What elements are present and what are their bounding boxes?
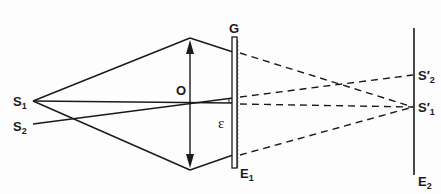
ray-s1-bottom xyxy=(33,101,190,170)
label-e1: E1 xyxy=(240,166,254,183)
label-grating-g: G xyxy=(229,21,239,36)
label-lens-o: O xyxy=(176,83,186,98)
label-s2: S2 xyxy=(13,119,27,136)
diagram-canvas: S1 S2 O G ε E1 S′2 S′1 E2 xyxy=(0,0,441,194)
ray-s1-top xyxy=(33,38,190,101)
ray-lens-top-to-grating xyxy=(190,38,233,52)
label-s2-prime: S′2 xyxy=(418,68,435,85)
dashed-top-to-s1prime xyxy=(240,53,413,107)
label-epsilon: ε xyxy=(218,115,224,131)
diffracted-rays xyxy=(240,53,413,155)
dashed-s2-to-s2prime xyxy=(240,75,413,97)
label-s1: S1 xyxy=(13,94,27,111)
dashed-axis-to-s1prime xyxy=(240,104,413,107)
incident-rays xyxy=(33,38,233,170)
label-e2: E2 xyxy=(418,174,432,191)
diffraction-diagram: S1 S2 O G ε E1 S′2 S′1 E2 xyxy=(0,0,441,194)
label-s1-prime: S′1 xyxy=(418,100,435,117)
dashed-bottom-to-s1prime xyxy=(240,107,413,155)
ray-lens-bottom-to-grating xyxy=(190,155,233,170)
grating-icon xyxy=(232,37,238,168)
